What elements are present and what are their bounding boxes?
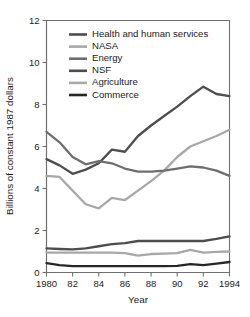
legend-label-2: Energy: [92, 52, 123, 63]
x-axis-ticks: 19808284868890921994: [36, 273, 240, 290]
legend-label-4: Agriculture: [92, 76, 138, 87]
y-tick-label: 4: [34, 183, 39, 194]
x-tick-label: 86: [120, 278, 131, 289]
x-axis-title: Year: [128, 294, 149, 305]
y-axis-title: Billions of constant 1987 dollars: [4, 77, 15, 215]
series-line-commerce: [47, 262, 230, 266]
series-line-agriculture: [47, 250, 230, 256]
legend-label-0: Health and human services: [92, 28, 208, 39]
x-tick-label: 1980: [36, 278, 57, 289]
chart-legend: Health and human servicesNASAEnergyNSFAg…: [69, 28, 208, 100]
series-line-nasa: [47, 130, 230, 209]
line-chart: 024681012 19808284868890921994 Health an…: [0, 0, 250, 317]
y-axis-ticks: 024681012: [29, 15, 47, 278]
x-tick-label: 84: [93, 278, 104, 289]
y-tick-label: 10: [29, 57, 40, 68]
x-tick-label: 1994: [219, 278, 240, 289]
y-tick-label: 8: [34, 99, 39, 110]
chart-container: 024681012 19808284868890921994 Health an…: [0, 0, 250, 317]
legend-label-1: NASA: [92, 40, 119, 51]
series-line-health-and-human-services: [47, 87, 230, 174]
y-tick-label: 6: [34, 141, 39, 152]
series-line-energy: [47, 132, 230, 176]
series-line-nsf: [47, 236, 230, 249]
x-tick-label: 92: [198, 278, 209, 289]
y-tick-label: 2: [34, 225, 39, 236]
x-tick-label: 88: [146, 278, 157, 289]
series-layer: [47, 87, 230, 267]
y-tick-label: 12: [29, 15, 40, 26]
y-tick-label: 0: [34, 267, 39, 278]
legend-label-3: NSF: [92, 64, 111, 75]
x-tick-label: 90: [172, 278, 183, 289]
x-tick-label: 82: [67, 278, 78, 289]
legend-label-5: Commerce: [92, 89, 139, 100]
